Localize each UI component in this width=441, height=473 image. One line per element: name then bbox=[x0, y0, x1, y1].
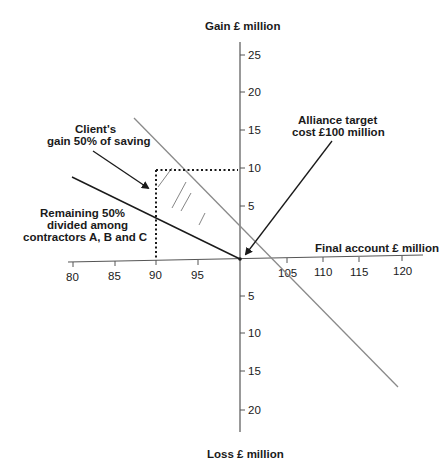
remaining-annotation-line2: divided among bbox=[47, 219, 128, 231]
y-tick-25: 25 bbox=[248, 49, 261, 61]
y-tick-5: 5 bbox=[248, 200, 254, 212]
y-loss-tick-10: 10 bbox=[248, 327, 261, 339]
origin-point bbox=[238, 257, 242, 261]
x-tick-85: 85 bbox=[108, 270, 121, 282]
y-gain-ticks bbox=[240, 55, 245, 410]
y-tick-15: 15 bbox=[248, 124, 261, 136]
x-axis bbox=[68, 255, 423, 262]
remaining-annotation-line1: Remaining 50% bbox=[40, 207, 125, 219]
y-axis-loss-label: Loss £ million bbox=[207, 448, 284, 460]
y-loss-tick-20: 20 bbox=[248, 404, 261, 416]
y-axis-gain-label: Gain £ million bbox=[205, 20, 280, 32]
x-tick-120: 120 bbox=[393, 265, 412, 277]
x-tick-115: 115 bbox=[350, 266, 368, 278]
client-gain-annotation-line2: gain 50% of saving bbox=[47, 135, 151, 147]
alliance-target-annotation-line1: Alliance target bbox=[298, 114, 377, 126]
x-tick-95: 95 bbox=[191, 269, 204, 281]
alliance-target-arrow bbox=[246, 141, 332, 254]
remaining-annotation-line3: contractors A, B and C bbox=[23, 231, 147, 243]
y-loss-tick-5: 5 bbox=[248, 290, 254, 302]
x-tick-110: 110 bbox=[314, 266, 332, 278]
x-axis-label: Final account £ million bbox=[315, 242, 439, 254]
y-tick-20: 20 bbox=[248, 86, 261, 98]
alliance-gain-loss-diagram: 25 20 15 10 5 5 10 15 20 80 85 90 95 105… bbox=[0, 0, 441, 473]
client-gain-annotation-line1: Client's bbox=[75, 123, 116, 135]
x-tick-105: 105 bbox=[278, 267, 297, 279]
client-gain-hatching bbox=[158, 168, 205, 225]
x-tick-90: 90 bbox=[149, 269, 162, 281]
y-loss-tick-15: 15 bbox=[248, 365, 261, 377]
x-tick-80: 80 bbox=[66, 271, 79, 283]
client-gain-arrow bbox=[93, 151, 148, 188]
y-tick-10: 10 bbox=[248, 162, 261, 174]
alliance-target-annotation-line2: cost £100 million bbox=[292, 126, 385, 138]
